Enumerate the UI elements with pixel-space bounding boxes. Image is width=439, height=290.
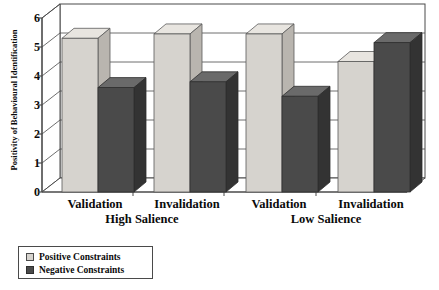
group-label-low-salience: Low Salience <box>236 213 416 226</box>
legend-label-positive: Positive Constraints <box>39 252 121 262</box>
group-label-high-salience: High Salience <box>52 213 232 226</box>
legend-label-negative: Negative Constraints <box>39 265 124 275</box>
chart-figure: Positivity of Behavioural Identification… <box>0 0 439 290</box>
chart-legend: Positive Constraints Negative Constraint… <box>18 246 153 279</box>
bar-high-validation-negative <box>98 78 146 192</box>
x-label-invalidation-low: Invalidation <box>315 198 427 211</box>
bar-high-invalidation-negative <box>190 72 238 192</box>
bar-low-validation-negative <box>282 86 330 192</box>
legend-swatch-positive-icon <box>26 253 34 261</box>
legend-item-negative: Negative Constraints <box>26 263 152 276</box>
legend-item-positive: Positive Constraints <box>26 250 152 263</box>
legend-swatch-negative-icon <box>26 266 34 274</box>
bar-low-invalidation-negative <box>374 33 422 192</box>
